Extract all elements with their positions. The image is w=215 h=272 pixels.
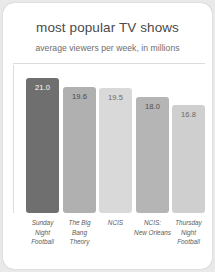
chart-subtitle: average viewers per week, in millions xyxy=(3,43,212,53)
x-axis-label-line: The Big xyxy=(60,218,100,228)
bar: 19.6 xyxy=(63,87,96,213)
bar-value-label: 19.5 xyxy=(99,93,132,102)
x-axis-label-line: Football xyxy=(169,237,209,247)
bar: 18.0 xyxy=(136,97,169,213)
chart-title: most popular TV shows xyxy=(3,20,212,35)
chart-plot-area: 21.019.619.518.016.8 xyxy=(3,65,212,215)
bar-value-label: 18.0 xyxy=(136,102,169,111)
x-axis-label-line: NCIS xyxy=(96,218,136,228)
x-axis-label-line: New Orleans xyxy=(133,228,173,238)
bar-value-label: 16.8 xyxy=(172,110,205,119)
x-axis-label-line: Sunday xyxy=(23,218,63,228)
x-axis-label-line: Bang xyxy=(60,228,100,238)
x-axis-label-line: Night xyxy=(23,228,63,238)
x-axis-label: NCIS:New Orleans xyxy=(133,218,173,237)
bar-value-label: 21.0 xyxy=(26,83,59,92)
x-axis-label-line: Football xyxy=(23,237,63,247)
x-axis-label-line: Thursday xyxy=(169,218,209,228)
y-axis-line xyxy=(13,65,14,213)
header-divider xyxy=(13,63,205,64)
chart-card: most popular TV shows average viewers pe… xyxy=(3,3,212,269)
x-axis-label: ThursdayNightFootball xyxy=(169,218,209,247)
bar-value-label: 19.6 xyxy=(63,92,96,101)
bar: 16.8 xyxy=(172,105,205,213)
chart-header: most popular TV shows average viewers pe… xyxy=(3,3,212,63)
bar: 21.0 xyxy=(26,78,59,213)
x-axis-label: NCIS xyxy=(96,218,136,228)
bar-series: 21.019.619.518.016.8 xyxy=(26,65,208,213)
x-axis-label: The BigBangTheory xyxy=(60,218,100,247)
bar: 19.5 xyxy=(99,88,132,213)
x-axis-label-line: Night xyxy=(169,228,209,238)
x-axis-label-line: Theory xyxy=(60,237,100,247)
x-axis-label: SundayNightFootball xyxy=(23,218,63,247)
x-axis-label-line: NCIS: xyxy=(133,218,173,228)
